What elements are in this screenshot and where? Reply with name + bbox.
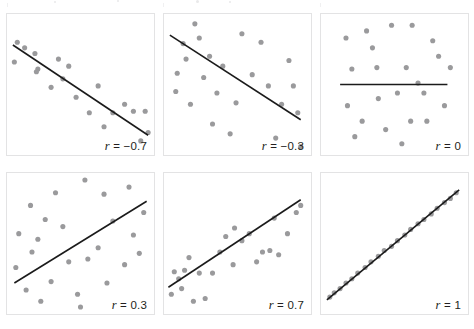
scatter-point [389,23,394,28]
scatter-point [214,90,219,95]
panel-r-minus-0-7: r = −0.7 [6,13,155,156]
scatter-point [201,75,206,80]
scatter-point [197,35,202,40]
scatter-point [364,28,369,33]
scatter-point [49,279,54,284]
scatter-point [410,23,415,28]
r-value-text: = −0.7 [110,140,147,152]
r-value-text: = 0 [441,140,461,152]
scatter-point [29,249,34,254]
scatter-point [294,210,299,215]
scatter-points [173,21,303,149]
panel-r-label: r = 0.3 [112,299,147,312]
scatter-point [228,131,233,136]
scatter-point [104,280,109,285]
scatter-point [183,57,188,62]
scatter-point [12,59,17,64]
scatter-point [430,38,435,43]
scatter-point [448,65,453,70]
scatter-point [60,224,65,229]
scatter-point [258,40,263,45]
scatter-point [96,245,101,250]
scatter-point [43,217,48,222]
scatter-point [13,265,18,270]
scatter-point [74,95,79,100]
scatter-point [137,251,142,256]
scatter-point [295,110,300,115]
scatter-point [122,102,127,107]
scatter-point [101,192,106,197]
scatter-point [210,121,215,126]
scatter-point [192,21,197,26]
scatter-plot-area [164,173,311,314]
scatter-plot-area [164,14,311,155]
scatter-point [197,271,202,276]
scatter-point [191,299,196,304]
scatter-point [421,90,426,95]
scatter-point [345,103,350,108]
scatter-point [376,96,381,101]
scatter-points [13,177,146,309]
scatter-point [87,110,92,115]
scatter-point [188,102,193,107]
panel-r-1: r = 1 [320,172,469,315]
scatter-point [223,234,228,239]
scatter-point [122,262,127,267]
r-value-text: = 1 [441,299,461,311]
scatter-point [291,83,296,88]
scatter-point [399,141,404,146]
panel-r-minus-0-3: r = −0.3 [163,13,312,156]
scatter-point [298,203,303,208]
r-value-text: = −0.3 [267,140,304,152]
scatter-point [126,185,131,190]
scatter-point [85,256,90,261]
scatter-point [233,100,238,105]
scatter-point [203,296,208,301]
scatter-point [210,271,215,276]
scatter-point [82,177,87,182]
scatter-point [179,286,184,291]
scatter-point [34,69,39,74]
scatter-point [408,119,413,124]
scatter-point [266,83,271,88]
scatter-point [260,249,265,254]
regression-line [170,35,301,120]
scatter-point [141,210,146,215]
scatter-point [360,119,365,124]
scatter-point [231,262,236,267]
scatter-point [56,57,61,62]
panel-r-0: r = 0 [320,13,469,156]
scatter-point [436,54,441,59]
scatter-point [286,58,291,63]
scatter-point [96,83,101,88]
panel-r-0-3: r = 0.3 [6,172,155,315]
scatter-point [343,35,348,40]
scatter-point [32,51,37,56]
regression-line [13,45,148,135]
scatter-point [254,259,259,264]
scatter-point [66,259,71,264]
scatter-point [15,40,20,45]
scatter-point [182,268,187,273]
scatter-point [186,255,191,260]
panel-r-label: r = 0 [436,140,461,153]
panel-r-label: r = −0.7 [105,140,147,153]
panel-r-0-7: r = 0.7 [163,172,312,315]
scatter-point [383,127,388,132]
scatter-point [267,248,272,253]
scatter-point [175,71,180,76]
scatter-point [172,269,177,274]
scatter-point [49,85,54,90]
scatter-point [207,54,212,59]
scatter-plot-area [321,14,468,155]
scatter-point [101,124,106,129]
scatter-point [250,72,255,77]
r-value-text: = 0.3 [117,299,147,311]
scatter-point [239,31,244,36]
scatter-plot-area [7,14,154,155]
scatter-point [404,65,409,70]
scatter-point [395,90,400,95]
scatter-point [285,231,290,236]
scatter-point [374,65,379,70]
scatter-point [232,225,237,230]
